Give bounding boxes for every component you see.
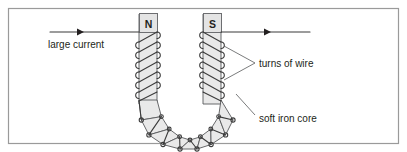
- north-pole-marker: N: [140, 14, 158, 33]
- current-label: large current: [48, 39, 104, 50]
- north-pole-letter: N: [145, 18, 153, 30]
- turns-of-wire-label: turns of wire: [259, 58, 314, 69]
- diagram-canvas: N S: [0, 0, 407, 152]
- electromagnet-diagram: N S: [0, 0, 407, 152]
- soft-iron-core-label: soft iron core: [259, 113, 317, 124]
- south-pole-letter: S: [209, 18, 216, 30]
- south-pole-marker: S: [204, 14, 222, 33]
